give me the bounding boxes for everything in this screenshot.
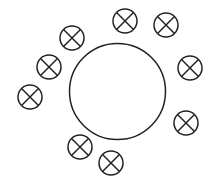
lamp-icon [178, 56, 202, 80]
lamp-icon [174, 111, 198, 135]
lamp-icon [37, 55, 61, 79]
lamp-icon [113, 9, 137, 33]
diagram-canvas [0, 0, 215, 189]
center-circle [70, 44, 166, 140]
lamp-icon [18, 85, 42, 109]
lamp-icon [99, 151, 123, 175]
lamp-icon [68, 135, 92, 159]
lamp-icon [154, 13, 178, 37]
lamp-icon [60, 26, 84, 50]
